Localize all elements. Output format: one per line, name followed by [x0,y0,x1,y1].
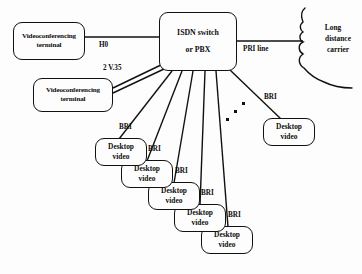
node-label-line2: video [192,218,209,228]
network-diagram: Videoconferencing terminal Videoconferen… [0,0,362,274]
cloud-label-line2: distance [317,33,359,44]
node-long-distance-carrier: Long distance carrier [307,22,359,55]
cloud-label-line3: carrier [317,44,359,55]
node-label-line2: video [166,196,183,206]
link-label-bri-cascade-1: BRI [119,123,132,131]
link-v35-b [113,69,164,93]
link-label-h0: H0 [99,41,108,49]
ellipsis-dot-2 [234,110,237,113]
link-label-bri-cascade-5: BRI [228,211,241,219]
link-label-bri-cascade-4: BRI [201,189,214,197]
link-label-bri-cascade-3: BRI [175,167,188,175]
link-label-pri: PRI line [243,45,268,53]
node-videoconferencing-terminal-1: Videoconferencing terminal [13,22,85,60]
cloud-label-line1: Long [307,22,359,33]
node-label-line1: Desktop [108,142,134,152]
node-label-line2: terminal [61,95,86,104]
link-label-v35: 2 V.35 [103,64,122,72]
node-isdn-switch: ISDN switch or PBX [159,12,237,71]
link-label-bri-cascade-2: BRI [148,145,161,153]
link-label-bri-right: BRI [264,93,277,101]
node-label-line1: Videoconferencing [22,32,76,41]
node-label-line1: Desktop [276,122,302,132]
ellipsis-dot-3 [226,118,229,121]
node-label-line2: video [139,174,156,184]
ellipsis-dot-1 [242,102,245,105]
node-label-line1: ISDN switch [177,28,219,38]
node-label-line2: terminal [37,41,62,50]
node-videoconferencing-terminal-2: Videoconferencing terminal [33,78,113,112]
node-desktop-video-cascade-1: Desktop video [95,138,147,166]
link-bri-cascade-4 [200,71,205,205]
node-label-line2: or PBX [186,45,211,55]
node-label-line2: video [219,240,236,250]
node-label-line2: video [113,152,130,162]
node-desktop-video-right: Desktop video [263,118,315,146]
node-label-line1: Videoconferencing [46,86,100,95]
node-label-line2: video [281,132,298,142]
